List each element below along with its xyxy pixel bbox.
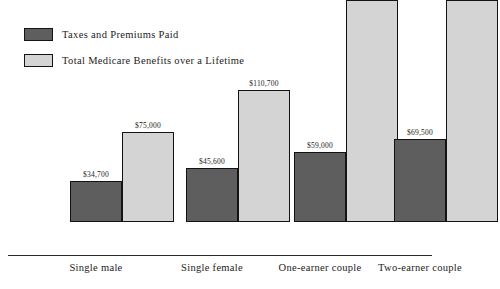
plot-area: $34,700$75,000$45,600$110,700$59,000$185…: [0, 0, 438, 256]
x-axis-baseline: [8, 255, 432, 256]
bar-pair: $45,600$110,700: [186, 0, 290, 222]
bar-benefits: $185,700: [446, 0, 498, 222]
bar-pair: $69,500$185,700: [394, 0, 498, 222]
bar-benefits: $185,700: [346, 0, 398, 222]
bar-value-label: $69,500: [407, 128, 433, 137]
bar-benefits: $110,700: [238, 90, 290, 222]
bar-benefits: $75,000: [122, 132, 174, 222]
bar-value-label: $59,000: [307, 141, 333, 150]
bar-taxes-paid: $59,000: [294, 152, 346, 222]
bar-taxes-paid: $45,600: [186, 168, 238, 222]
bar-value-label: $34,700: [83, 170, 109, 179]
bar-value-label: $45,600: [199, 157, 225, 166]
bar-taxes-paid: $34,700: [70, 181, 122, 222]
bar-pair: $59,000$185,700: [294, 0, 398, 222]
bar-taxes-paid: $69,500: [394, 139, 446, 222]
category-label: Two-earner couple: [340, 262, 500, 273]
bar-pair: $34,700$75,000: [70, 0, 174, 222]
bar-value-label: $75,000: [135, 121, 161, 130]
bar-value-label: $110,700: [249, 79, 278, 88]
